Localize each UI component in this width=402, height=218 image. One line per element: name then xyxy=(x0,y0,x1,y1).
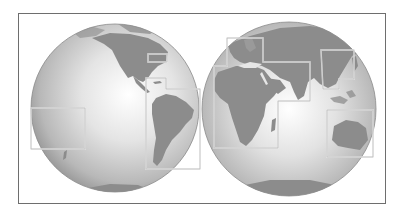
eastern-hemisphere-globe xyxy=(202,22,376,198)
world-regions-figure xyxy=(0,0,402,218)
globes-illustration xyxy=(0,0,402,218)
